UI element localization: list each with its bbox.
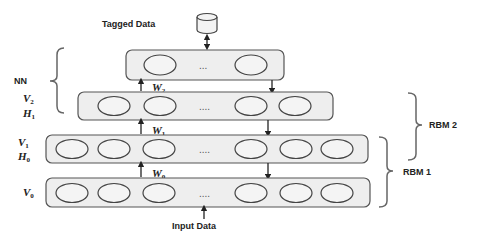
- layer-v1-h0: ....: [46, 135, 368, 163]
- nn-label: NN: [14, 76, 27, 86]
- nn-brace: [50, 48, 64, 113]
- ellipsis: ....: [199, 101, 210, 112]
- label-h0: H0: [17, 150, 31, 164]
- dbn-diagram: Tagged Data ... W2 .... V2 H1 W1 ....: [0, 0, 485, 241]
- input-data-label: Input Data: [172, 221, 217, 231]
- rbm1-label: RBM 1: [403, 167, 431, 177]
- rbm2-bracket: [408, 93, 422, 160]
- label-v2: V2: [23, 92, 34, 106]
- database-cylinder-icon: [197, 14, 217, 34]
- label-v0: V0: [23, 186, 34, 200]
- label-h1: H1: [22, 107, 36, 121]
- ellipsis: ...: [199, 60, 207, 71]
- rbm1-bracket: [379, 137, 393, 207]
- layer-output: ...: [126, 50, 284, 80]
- rbm2-label: RBM 2: [429, 120, 457, 130]
- layer-v2-h1: ....: [78, 92, 333, 120]
- layer-v0: ....: [46, 178, 370, 207]
- tagged-data-label: Tagged Data: [102, 19, 156, 29]
- ellipsis: ....: [199, 144, 210, 155]
- ellipsis: ....: [199, 188, 210, 199]
- label-v1: V1: [18, 136, 29, 150]
